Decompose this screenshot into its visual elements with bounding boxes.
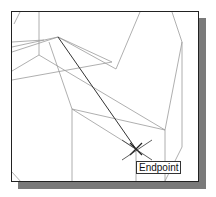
geometry-line — [58, 12, 140, 69]
snap-tooltip: Endpoint — [136, 161, 181, 174]
drawing-geometry — [12, 12, 199, 182]
active-line — [58, 37, 136, 149]
cad-drawing-viewport[interactable] — [11, 11, 199, 182]
geometry-line — [12, 55, 39, 71]
geometry-line — [165, 42, 182, 130]
crosshair-cursor — [122, 140, 152, 160]
geometry-line — [12, 172, 22, 182]
geometry-line — [14, 12, 20, 24]
geometry-line — [12, 37, 58, 47]
geometry-line — [164, 12, 182, 182]
geometry-line — [39, 55, 165, 130]
